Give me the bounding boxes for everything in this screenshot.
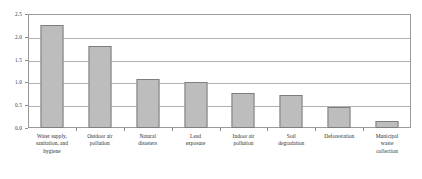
bar-slot (76, 14, 124, 128)
bar (280, 95, 303, 128)
x-axis-category-label-line: Natural (124, 133, 172, 140)
x-axis-category-label-line: exposure (172, 140, 220, 147)
bar-slot (267, 14, 315, 128)
x-axis-category-label-line: Water supply, (28, 133, 76, 140)
bar-slot (172, 14, 220, 128)
x-axis-category-label-line: Indoor air (220, 133, 268, 140)
y-axis-tick-label: 2.0 (15, 34, 22, 40)
y-axis-tick-label: 0.5 (15, 102, 22, 108)
x-axis-category-label-line: Outdoor air (76, 133, 124, 140)
x-axis-category-label-line: disasters (124, 140, 172, 147)
x-axis-tick-mark (172, 128, 173, 131)
x-axis-category-label-line: waste (363, 140, 411, 147)
bar (136, 79, 159, 128)
bar-series (28, 14, 411, 128)
bar (376, 121, 399, 128)
y-axis-tick-label: 2.5 (15, 11, 22, 17)
bar-slot (363, 14, 411, 128)
chart-figure: 0.00.51.01.52.02.5 Water supply,sanitati… (0, 0, 422, 179)
y-axis-tick-label: 1.0 (15, 79, 22, 85)
x-axis-category-label-line: Lead (172, 133, 220, 140)
bar (184, 82, 207, 128)
y-axis-tick-label: 0.0 (15, 125, 22, 131)
x-axis-category-label-line: Deforestation (315, 133, 363, 140)
x-axis-tick-mark (220, 128, 221, 131)
bar (40, 25, 63, 129)
x-axis-category-label: Soildegradation (267, 133, 315, 148)
x-axis-category-label-line: Soil (267, 133, 315, 140)
y-axis-tick-mark (25, 128, 28, 129)
x-axis-tick-mark (124, 128, 125, 131)
x-axis-category-label-line: pollution (220, 140, 268, 147)
x-axis-category-label: Leadexposure (172, 133, 220, 148)
x-axis-category-label-line: pollution (76, 140, 124, 147)
bar (328, 107, 351, 128)
bar-slot (315, 14, 363, 128)
x-axis-category-label-line: degradation (267, 140, 315, 147)
x-axis-category-label-line: hygiene (28, 148, 76, 155)
x-axis-category-label-line: collection (363, 148, 411, 155)
x-axis-category-label: Deforestation (315, 133, 363, 140)
x-axis-category-label-line: sanitation, and (28, 140, 76, 147)
bar-slot (124, 14, 172, 128)
x-axis-tick-mark (363, 128, 364, 131)
bar (232, 93, 255, 128)
x-axis-category-label: Naturaldisasters (124, 133, 172, 148)
x-axis-tick-mark (267, 128, 268, 131)
y-axis: 0.00.51.01.52.02.5 (0, 0, 28, 179)
bar-slot (28, 14, 76, 128)
bar-slot (220, 14, 268, 128)
x-axis-category-label: Water supply,sanitation, andhygiene (28, 133, 76, 155)
y-axis-tick-label: 1.5 (15, 57, 22, 63)
x-axis-category-label: Indoor airpollution (220, 133, 268, 148)
bar (88, 46, 111, 128)
x-axis-category-labels: Water supply,sanitation, andhygieneOutdo… (28, 133, 411, 179)
x-axis-category-label: Outdoor airpollution (76, 133, 124, 148)
x-axis-tick-mark (76, 128, 77, 131)
x-axis-tick-mark (315, 128, 316, 131)
x-axis-category-label: Municipalwastecollection (363, 133, 411, 155)
x-axis-category-label-line: Municipal (363, 133, 411, 140)
